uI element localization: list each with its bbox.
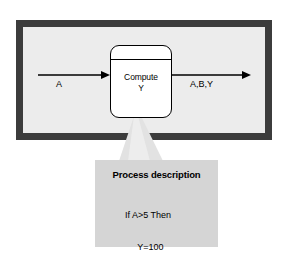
input-flow-label: A: [56, 79, 62, 89]
process-box-divider: [111, 59, 171, 60]
diagram-canvas: Compute Y A A,B,Y Process description If…: [0, 0, 292, 259]
output-flow-label: A,B,Y: [190, 79, 213, 89]
process-box-label: Compute Y: [111, 72, 171, 93]
code-line: If A>5 Then: [125, 210, 171, 221]
process-label-line-1: Compute: [111, 72, 171, 83]
process-label-line-2: Y: [111, 83, 171, 94]
process-description-heading: Process description: [95, 169, 218, 180]
process-description-code: If A>5 Then Y=100 Else Y=250 Endif: [125, 189, 171, 259]
code-line: Y=100: [125, 242, 171, 253]
process-box: Compute Y: [110, 45, 172, 118]
process-description-box: Process description If A>5 Then Y=100 El…: [95, 160, 218, 247]
